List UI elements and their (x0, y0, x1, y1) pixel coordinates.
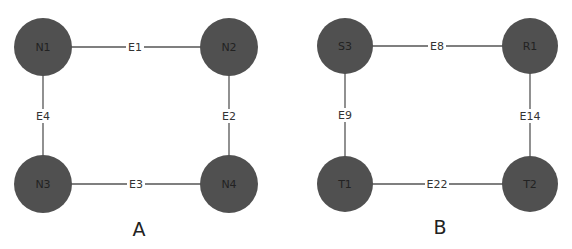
node-t2: T2 (502, 156, 558, 212)
node-label-n4: N4 (221, 178, 236, 191)
node-n2: N2 (200, 18, 258, 76)
node-label-s3: S3 (338, 40, 352, 53)
node-n4: N4 (200, 155, 258, 213)
edge-label-e14: E14 (520, 110, 541, 123)
node-label-r1: R1 (523, 40, 538, 53)
node-n1: N1 (14, 18, 72, 76)
edge-label-e22: E22 (427, 178, 448, 191)
node-s3: S3 (317, 18, 373, 74)
panel-label-b: B (433, 216, 446, 238)
edge-label-e8: E8 (430, 40, 444, 53)
node-t1: T1 (317, 156, 373, 212)
node-label-t2: T2 (522, 178, 537, 191)
node-r1: R1 (502, 18, 558, 74)
edge-label-e2: E2 (222, 110, 236, 123)
node-label-t1: T1 (337, 178, 352, 191)
panel-b: E8 E14 E22 E9 S3 R1 T1 T2 B (317, 18, 558, 238)
edge-label-e1: E1 (128, 41, 142, 54)
edge-label-e9: E9 (338, 109, 352, 122)
node-label-n1: N1 (35, 41, 50, 54)
panel-a: E1 E2 E3 E4 N1 N2 N3 N4 A (14, 18, 258, 240)
node-n3: N3 (14, 155, 72, 213)
node-label-n2: N2 (221, 41, 236, 54)
edge-label-e4: E4 (36, 110, 50, 123)
edge-label-e3: E3 (129, 178, 143, 191)
diagram-canvas: E1 E2 E3 E4 N1 N2 N3 N4 A E8 (0, 0, 572, 249)
panel-label-a: A (133, 218, 146, 240)
node-label-n3: N3 (35, 178, 50, 191)
